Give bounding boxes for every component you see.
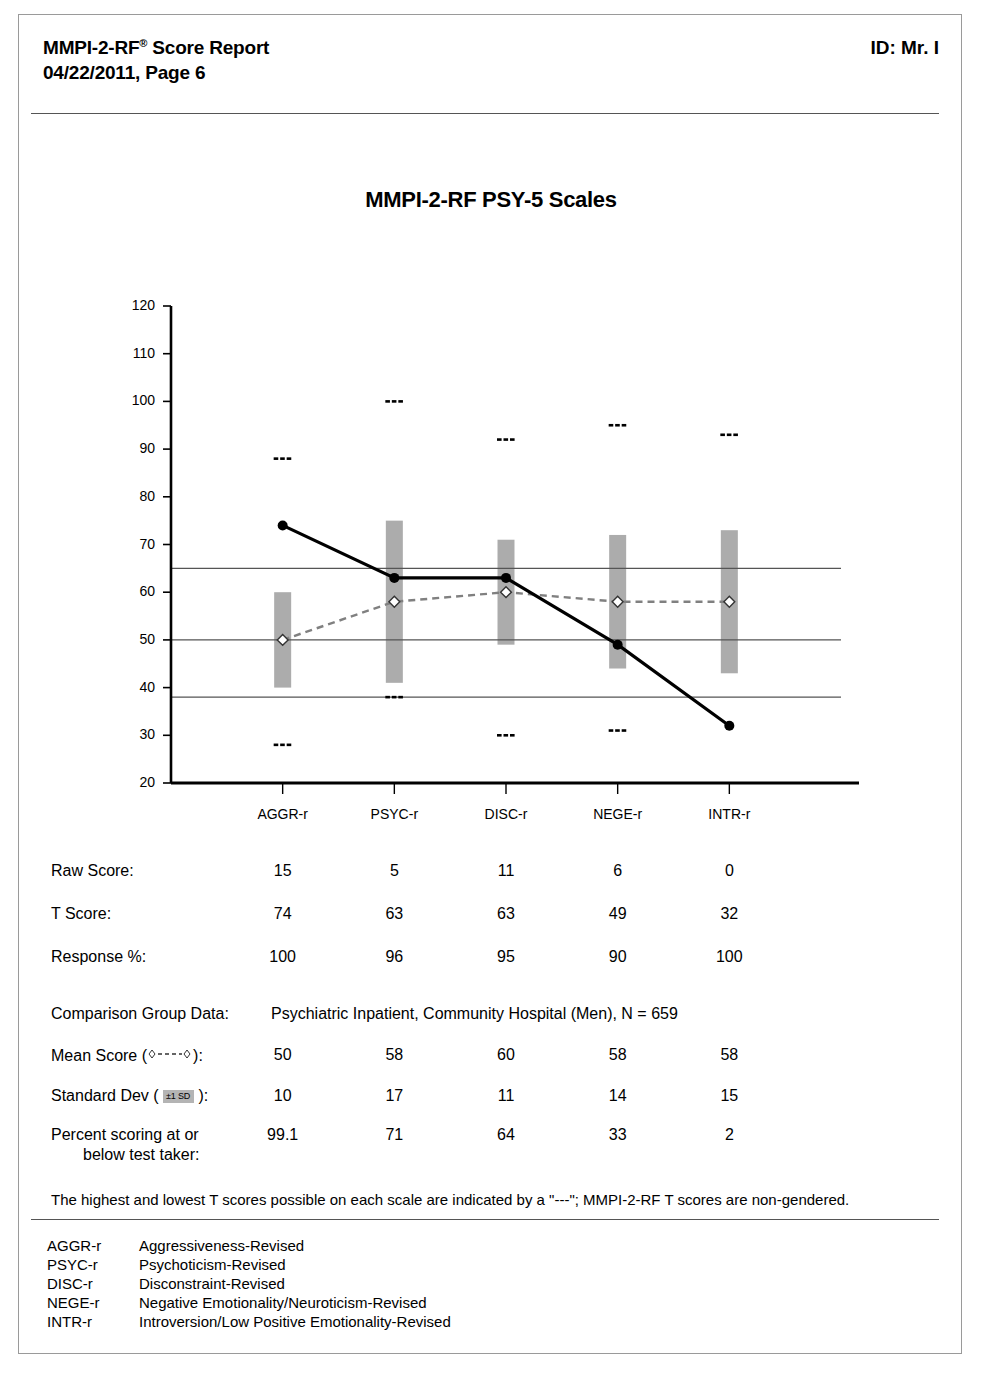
y-axis-label-30: 30	[115, 726, 155, 742]
x-axis-label-disc-r: DISC-r	[451, 806, 561, 822]
abbreviation-row: NEGE-rNegative Emotionality/Neuroticism-…	[47, 1294, 927, 1313]
dash-segment	[398, 400, 403, 403]
dash-segment	[392, 696, 397, 699]
standard-dev-label-text: Standard Dev (	[51, 1087, 163, 1104]
abbreviation-code: INTR-r	[47, 1313, 139, 1330]
y-axis-label-100: 100	[115, 392, 155, 408]
y-axis-label-110: 110	[115, 345, 155, 361]
percent-scoring-aggr-r: 99.1	[228, 1126, 338, 1144]
abbreviation-row: PSYC-rPsychoticism-Revised	[47, 1256, 927, 1275]
dash-segment	[287, 457, 292, 460]
chart-title: MMPI-2-RF PSY-5 Scales	[19, 187, 963, 213]
cell-psyc-r: 96	[339, 948, 449, 966]
abbreviation-legend: AGGR-rAggressiveness-RevisedPSYC-rPsycho…	[47, 1237, 927, 1332]
dash-segment	[274, 457, 279, 460]
abbreviation-name: Introversion/Low Positive Emotionality-R…	[139, 1313, 451, 1330]
cell-aggr-r: 15	[228, 862, 338, 880]
sd-bar-aggr-r	[274, 592, 291, 687]
x-axis-label-nege-r: NEGE-r	[563, 806, 673, 822]
chart-footnote: The highest and lowest T scores possible…	[51, 1191, 951, 1208]
dash-segment	[280, 457, 285, 460]
y-axis-label-80: 80	[115, 488, 155, 504]
percent-scoring-psyc-r: 71	[339, 1126, 449, 1144]
cell-nege-r: 49	[563, 905, 673, 923]
report-header: MMPI-2-RF® Score Report 04/22/2011, Page…	[31, 37, 951, 103]
mean-score-nege-r: 58	[563, 1046, 673, 1064]
t-score-marker-aggr-r	[278, 520, 288, 530]
min-score-marker-nege-r	[609, 729, 627, 732]
standard-dev-psyc-r: 17	[339, 1087, 449, 1105]
dash-segment	[385, 696, 390, 699]
mean-score-legend-icon	[147, 1046, 193, 1064]
sd-band-legend-icon: ±1 SD	[163, 1090, 194, 1103]
dash-segment	[280, 744, 285, 747]
sd-bar-intr-r	[721, 530, 738, 673]
dash-segment	[615, 424, 620, 427]
percent-scoring-row: Percent scoring at orbelow test taker:99…	[31, 1126, 939, 1152]
dash-segment	[497, 734, 502, 737]
report-title-main: MMPI-2-RF	[43, 37, 139, 58]
t-score-marker-nege-r	[613, 640, 623, 650]
standard-dev-intr-r: 15	[674, 1087, 784, 1105]
cell-psyc-r: 63	[339, 905, 449, 923]
mean-score-marker-intr-r	[724, 596, 735, 607]
report-title: MMPI-2-RF® Score Report	[43, 37, 269, 59]
mean-score-aggr-r: 50	[228, 1046, 338, 1064]
standard-dev-label: Standard Dev ( ±1 SD ):	[51, 1087, 208, 1105]
dash-segment	[622, 729, 627, 732]
min-score-marker-aggr-r	[274, 744, 292, 747]
table-row: T Score:7463634932	[31, 905, 939, 931]
sd-bar-disc-r	[498, 540, 515, 645]
t-score-line	[283, 525, 730, 725]
dash-segment	[727, 433, 732, 436]
abbreviation-row: DISC-rDisconstraint-Revised	[47, 1275, 927, 1294]
mean-score-label-suffix: ):	[193, 1047, 203, 1064]
mean-score-label: Mean Score ():	[51, 1046, 203, 1065]
y-axis-label-70: 70	[115, 536, 155, 552]
cell-nege-r: 90	[563, 948, 673, 966]
y-axis-label-20: 20	[115, 774, 155, 790]
abbreviation-name: Aggressiveness-Revised	[139, 1237, 304, 1254]
cell-disc-r: 11	[451, 862, 561, 880]
abbreviation-name: Psychoticism-Revised	[139, 1256, 286, 1273]
max-score-marker-intr-r	[720, 433, 738, 436]
cell-intr-r: 100	[674, 948, 784, 966]
min-score-marker-disc-r	[497, 734, 515, 737]
min-score-marker-psyc-r	[385, 696, 403, 699]
report-id: ID: Mr. I	[870, 37, 939, 59]
cell-disc-r: 63	[451, 905, 561, 923]
report-subtitle: 04/22/2011, Page 6	[43, 62, 205, 84]
mean-score-psyc-r: 58	[339, 1046, 449, 1064]
dash-segment	[733, 433, 738, 436]
cell-aggr-r: 100	[228, 948, 338, 966]
abbreviation-code: NEGE-r	[47, 1294, 139, 1311]
dash-segment	[609, 729, 614, 732]
mean-score-intr-r: 58	[674, 1046, 784, 1064]
comparison-group-row: Comparison Group Data:Psychiatric Inpati…	[31, 1005, 939, 1031]
sd-bar-nege-r	[609, 535, 626, 669]
row-label: Response %:	[51, 948, 146, 966]
abbreviation-code: AGGR-r	[47, 1237, 139, 1254]
dash-segment	[504, 438, 509, 441]
dash-segment	[398, 696, 403, 699]
mean-score-marker-psyc-r	[389, 596, 400, 607]
max-score-marker-disc-r	[497, 438, 515, 441]
cell-intr-r: 0	[674, 862, 784, 880]
row-label: T Score:	[51, 905, 111, 923]
t-score-marker-psyc-r	[389, 573, 399, 583]
dash-segment	[385, 400, 390, 403]
mean-score-marker-disc-r	[501, 587, 512, 598]
mean-score-marker-aggr-r	[277, 635, 288, 646]
x-axis-label-intr-r: INTR-r	[674, 806, 784, 822]
report-title-suffix: Score Report	[147, 37, 269, 58]
mean-score-disc-r: 60	[451, 1046, 561, 1064]
percent-scoring-label-line2: below test taker:	[83, 1146, 200, 1164]
dash-segment	[392, 400, 397, 403]
dash-segment	[615, 729, 620, 732]
x-axis-label-psyc-r: PSYC-r	[339, 806, 449, 822]
row-label: Raw Score:	[51, 862, 134, 880]
mean-score-marker-nege-r	[612, 596, 623, 607]
cell-aggr-r: 74	[228, 905, 338, 923]
dash-segment	[510, 734, 515, 737]
header-divider	[31, 113, 939, 114]
